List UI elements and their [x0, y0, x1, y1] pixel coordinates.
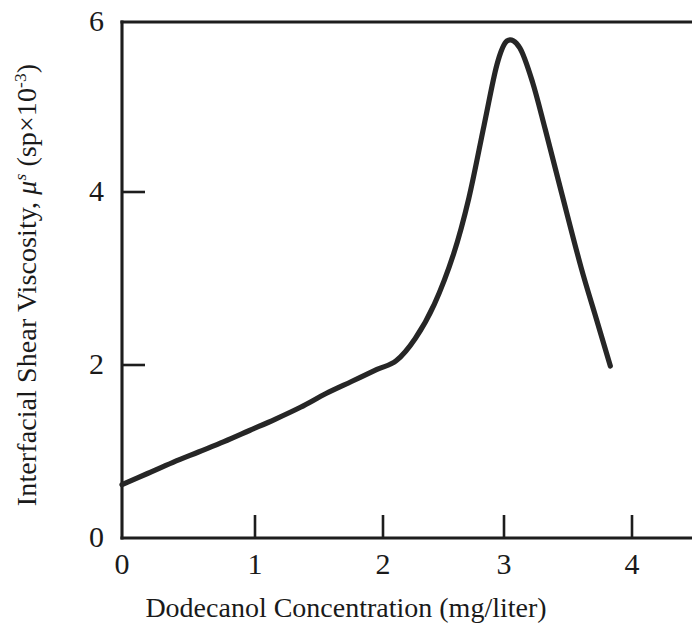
- plot-area: [0, 0, 692, 632]
- data-series-line: [122, 40, 610, 485]
- chart-figure: Interfacial Shear Viscosity, μs (sp×10-3…: [0, 0, 692, 632]
